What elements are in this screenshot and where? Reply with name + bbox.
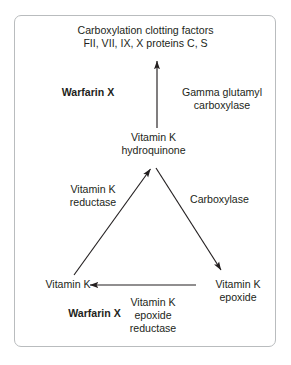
label-gamma-glutamyl-carboxylase-line2: carboxylase bbox=[166, 99, 278, 112]
label-carboxylase-line1: Carboxylase bbox=[190, 193, 274, 206]
node-clotting-factors-line1: Carboxylation clotting factors bbox=[0, 24, 291, 37]
label-vitamin-k-epoxide-reductase: Vitamin K epoxide reductase bbox=[113, 296, 193, 336]
label-warfarin-inhibitor-top: Warfarin X bbox=[40, 86, 136, 99]
label-vitamin-k-epoxide-reductase-line1: Vitamin K bbox=[113, 296, 193, 309]
node-vitamin-k-hydroquinone-line2: hydroquinone bbox=[96, 144, 211, 157]
label-vitamin-k-reductase-line2: reductase bbox=[50, 196, 136, 209]
node-clotting-factors-line2: FII, VII, IX, X proteins C, S bbox=[0, 37, 291, 50]
label-carboxylase: Carboxylase bbox=[190, 193, 274, 206]
label-gamma-glutamyl-carboxylase-line1: Gamma glutamyl bbox=[166, 86, 278, 99]
node-vitamin-k-epoxide-line1: Vitamin K bbox=[198, 278, 278, 291]
label-vitamin-k-reductase-line1: Vitamin K bbox=[50, 183, 136, 196]
label-warfarin-top-text: Warfarin X bbox=[40, 86, 136, 99]
diagram-root: Carboxylation clotting factors FII, VII,… bbox=[0, 0, 291, 365]
label-vitamin-k-reductase: Vitamin K reductase bbox=[50, 183, 136, 209]
label-vitamin-k-epoxide-reductase-line2: epoxide bbox=[113, 309, 193, 322]
label-gamma-glutamyl-carboxylase: Gamma glutamyl carboxylase bbox=[166, 86, 278, 112]
node-vitamin-k-hydroquinone: Vitamin K hydroquinone bbox=[96, 131, 211, 157]
label-vitamin-k-epoxide-reductase-line3: reductase bbox=[113, 322, 193, 335]
node-vitamin-k-hydroquinone-line1: Vitamin K bbox=[96, 131, 211, 144]
node-vitamin-k-line1: Vitamin K bbox=[23, 278, 113, 291]
node-carboxylation-clotting-factors: Carboxylation clotting factors FII, VII,… bbox=[0, 24, 291, 50]
node-vitamin-k-epoxide-line2: epoxide bbox=[198, 291, 278, 304]
node-vitamin-k: Vitamin K bbox=[23, 278, 113, 291]
node-vitamin-k-epoxide: Vitamin K epoxide bbox=[198, 278, 278, 304]
